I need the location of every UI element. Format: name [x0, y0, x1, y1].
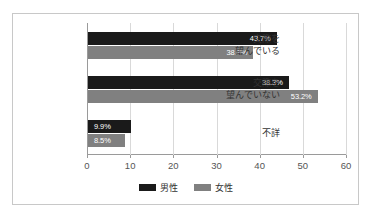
- x-tick-label: 30: [211, 160, 222, 171]
- category-label-line: 望んでいない: [226, 89, 280, 101]
- legend-item-女性[interactable]: 女性: [194, 181, 233, 194]
- plot-area: 43.7%38.3%38.3%53.2%9.9%8.5%: [87, 23, 347, 155]
- gridline-60: [346, 23, 347, 155]
- bar-男性-2: 9.9%: [88, 120, 131, 133]
- bar-value-label: 9.9%: [94, 122, 111, 131]
- tick-mark-50: [303, 155, 304, 158]
- bar-女性-1: 53.2%: [88, 90, 318, 103]
- category-label-line: 不詳: [262, 127, 280, 139]
- chart-legend: 男性女性: [13, 181, 358, 194]
- bar-女性-2: 8.5%: [88, 134, 125, 147]
- category-label-line: 望んでいる: [235, 45, 280, 57]
- category-label-1: 交際を望んでいない: [226, 77, 280, 101]
- x-tick-label: 20: [168, 160, 179, 171]
- tick-mark-30: [217, 155, 218, 158]
- tick-mark-60: [346, 155, 347, 158]
- x-tick-label: 50: [298, 160, 309, 171]
- legend-swatch-icon: [139, 184, 156, 191]
- chart-container: 43.7%38.3%38.3%53.2%9.9%8.5% 01020304050…: [12, 13, 359, 205]
- legend-label: 男性: [160, 181, 178, 194]
- category-label-0: 交際を望んでいる: [235, 33, 280, 57]
- bar-女性-0: 38.3%: [88, 46, 253, 59]
- x-tick-label: 10: [125, 160, 136, 171]
- category-label-line: 交際を: [235, 33, 280, 45]
- x-tick-label: 0: [84, 160, 89, 171]
- legend-swatch-icon: [194, 184, 211, 191]
- x-tick-label: 40: [254, 160, 265, 171]
- bar-value-label: 53.2%: [291, 92, 312, 101]
- tick-mark-0: [87, 155, 88, 158]
- x-tick-label: 60: [341, 160, 352, 171]
- tick-mark-40: [260, 155, 261, 158]
- bar-value-label: 8.5%: [94, 136, 111, 145]
- tick-mark-20: [173, 155, 174, 158]
- category-label-2: 不詳: [262, 127, 280, 139]
- legend-item-男性[interactable]: 男性: [139, 181, 178, 194]
- legend-label: 女性: [215, 181, 233, 194]
- tick-mark-10: [130, 155, 131, 158]
- category-label-line: 交際を: [226, 77, 280, 89]
